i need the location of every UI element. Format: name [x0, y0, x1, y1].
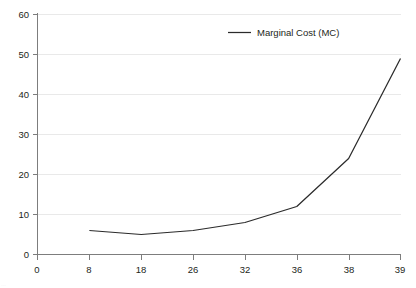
y-tick-label-0: 0 [24, 249, 29, 260]
y-tick-label-50: 50 [18, 49, 29, 60]
x-tick-label-39: 39 [395, 264, 406, 275]
chart-canvas: 60 50 40 30 20 10 0 0 8 18 26 32 36 [0, 0, 416, 288]
y-tick-label-20: 20 [18, 169, 29, 180]
chart-background [0, 0, 416, 288]
x-tick-label-38: 38 [344, 264, 355, 275]
y-tick-label-10: 10 [18, 209, 29, 220]
y-tick-label-40: 40 [18, 89, 29, 100]
x-tick-label-0: 0 [34, 264, 39, 275]
x-tick-label-26: 26 [188, 264, 199, 275]
x-tick-label-32: 32 [240, 264, 251, 275]
legend-label-marginal-cost: Marginal Cost (MC) [257, 27, 339, 38]
y-tick-label-60: 60 [18, 9, 29, 20]
x-tick-label-36: 36 [292, 264, 303, 275]
x-tick-label-18: 18 [136, 264, 147, 275]
x-tick-label-8: 8 [86, 264, 91, 275]
y-tick-label-30: 30 [18, 129, 29, 140]
bottom-left-scan-artifact: ··· [1, 283, 27, 288]
marginal-cost-line-chart: 60 50 40 30 20 10 0 0 8 18 26 32 36 [0, 0, 416, 288]
